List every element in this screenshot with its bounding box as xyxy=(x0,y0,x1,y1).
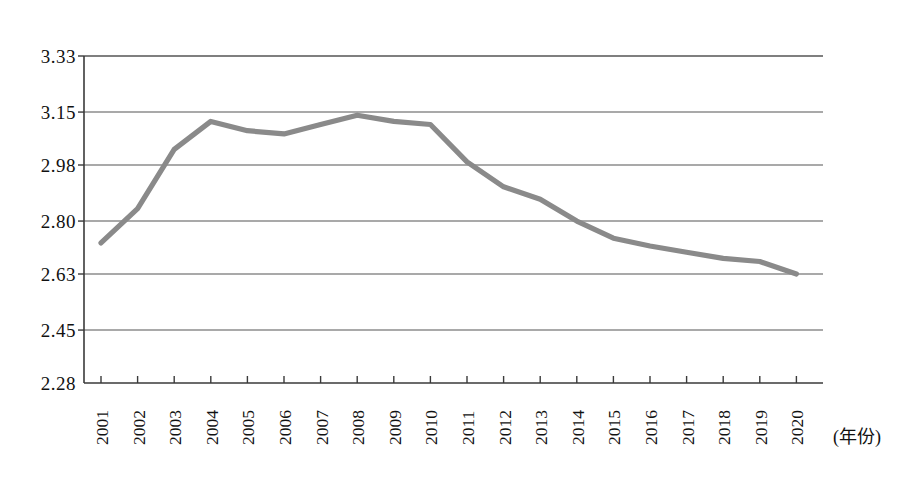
x-axis-ticks-group xyxy=(101,376,796,383)
x-axis-tick-label: 2005 xyxy=(240,410,258,445)
y-axis-tick-label: 3.15 xyxy=(14,103,76,122)
x-axis-tick-label: 2006 xyxy=(277,410,295,445)
y-axis-tick-label: 2.45 xyxy=(14,321,76,340)
y-axis-tick-label: 3.33 xyxy=(14,47,76,66)
x-axis-tick-label: 2014 xyxy=(570,410,588,445)
data-series-line xyxy=(101,115,796,274)
y-axis-tick-label: 2.63 xyxy=(14,265,76,284)
x-axis-tick-label: 2019 xyxy=(753,410,771,445)
x-axis-tick-label: 2020 xyxy=(789,410,807,445)
x-axis-tick-label: 2015 xyxy=(606,410,624,445)
gridlines-group xyxy=(78,56,823,330)
y-axis-tick-label: 2.28 xyxy=(14,374,76,393)
x-axis-tick-label: 2002 xyxy=(131,410,149,445)
x-axis-tick-label: 2008 xyxy=(350,410,368,445)
x-axis-tick-label: 2007 xyxy=(314,410,332,445)
x-axis-tick-label: 2017 xyxy=(680,410,698,445)
x-axis-tick-label: 2003 xyxy=(167,410,185,445)
x-axis-tick-label: 2004 xyxy=(204,410,222,445)
x-axis-tick-label: 2012 xyxy=(497,410,515,445)
x-axis-tick-label: 2018 xyxy=(716,410,734,445)
x-axis-unit-label: (年份) xyxy=(833,428,881,446)
chart-container: 3.333.152.982.802.632.452.28 20012002200… xyxy=(0,0,898,485)
x-axis-tick-label: 2011 xyxy=(460,411,478,445)
y-axis-tick-label: 2.80 xyxy=(14,212,76,231)
x-axis-tick-label: 2010 xyxy=(423,410,441,445)
x-axis-tick-label: 2013 xyxy=(533,410,551,445)
x-axis-tick-label: 2009 xyxy=(387,410,405,445)
x-axis-tick-label: 2001 xyxy=(94,410,112,445)
y-axis-tick-label: 2.98 xyxy=(14,156,76,175)
x-axis-tick-label: 2016 xyxy=(643,410,661,445)
